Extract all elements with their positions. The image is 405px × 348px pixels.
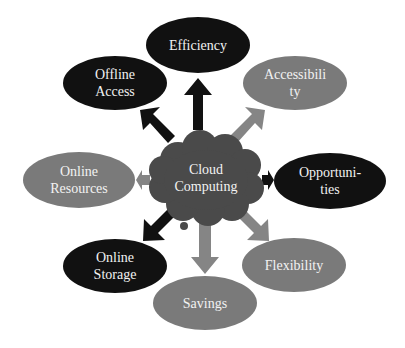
node-savings: Savings <box>153 276 257 330</box>
node-online-storage-label-line1: Online <box>96 250 134 265</box>
node-accessibility-label-line1: Accessibili <box>264 67 326 82</box>
node-accessibility-label-line2: ty <box>290 84 301 99</box>
node-offline-access: Offline Access <box>63 56 167 110</box>
node-savings-label: Savings <box>183 296 227 311</box>
node-accessibility: Accessibili ty <box>243 56 347 110</box>
node-opportunities-label-line1: Opportuni- <box>299 165 362 180</box>
arrow-up-icon <box>184 78 212 130</box>
node-opportunities-label-line2: ties <box>320 182 339 197</box>
arrow-up-left-icon <box>140 107 175 143</box>
node-online-resources-label-line2: Resources <box>50 181 108 196</box>
arrow-down-icon <box>191 222 219 274</box>
node-opportunities: Opportuni- ties <box>274 153 386 209</box>
node-online-storage: Online Storage <box>63 239 167 293</box>
node-flexibility: Flexibility <box>242 238 346 292</box>
arrow-left-icon <box>136 170 150 190</box>
node-online-resources-label-line1: Online <box>60 164 98 179</box>
cloud-computing-diagram: Cloud Computing Efficiency Accessibili t… <box>0 0 405 348</box>
center-label-line2: Computing <box>174 179 237 194</box>
center-label-line1: Cloud <box>189 162 223 177</box>
node-offline-access-label-line1: Offline <box>95 67 135 82</box>
node-efficiency: Efficiency <box>146 17 250 73</box>
node-offline-access-label-line2: Access <box>95 84 135 99</box>
node-online-resources: Online Resources <box>23 152 135 208</box>
node-flexibility-label: Flexibility <box>265 258 323 273</box>
node-efficiency-label: Efficiency <box>169 38 227 53</box>
node-online-storage-label-line2: Storage <box>94 267 137 282</box>
